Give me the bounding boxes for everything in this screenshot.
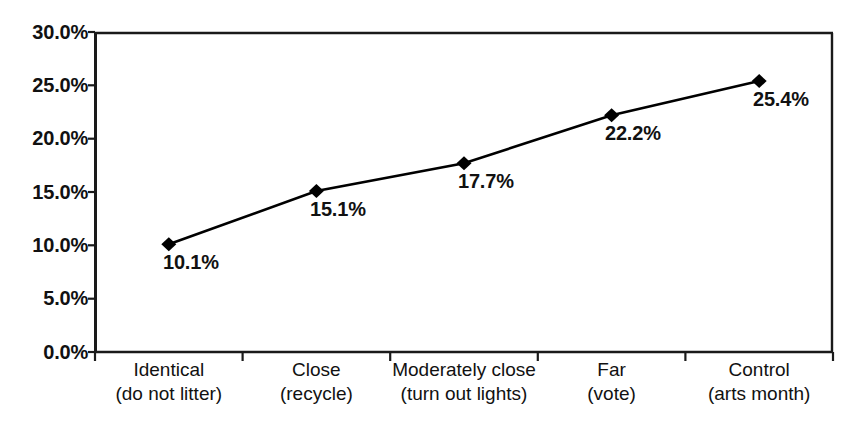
- x-category-label: Far (vote): [538, 358, 686, 420]
- x-category-line2: (recycle): [243, 382, 391, 406]
- x-category-label: Moderately close (turn out lights): [390, 358, 538, 420]
- y-axis-ticks: [88, 32, 95, 352]
- x-category-label: Close (recycle): [243, 358, 391, 420]
- x-category-label: Control (arts month): [685, 358, 833, 420]
- data-point-marker: [604, 108, 619, 122]
- x-category-line2: (do not litter): [95, 382, 243, 406]
- data-point-label: 25.4%: [753, 89, 809, 109]
- x-category-line2: (vote): [538, 382, 686, 406]
- data-point-marker: [161, 237, 176, 251]
- data-point-marker: [752, 74, 767, 88]
- data-point-label: 15.1%: [310, 199, 366, 219]
- x-category-line1: Moderately close: [390, 358, 538, 382]
- x-axis-category-labels: Identical (do not litter) Close (recycle…: [95, 358, 833, 420]
- data-point-label: 17.7%: [458, 171, 514, 191]
- x-category-line1: Close: [243, 358, 391, 382]
- data-point-marker: [457, 156, 472, 170]
- line-chart: 30.0% 25.0% 20.0% 15.0% 10.0% 5.0% 0.0%: [0, 0, 863, 431]
- x-category-line1: Far: [538, 358, 686, 382]
- x-category-line2: (turn out lights): [390, 382, 538, 406]
- x-category-line1: Identical: [95, 358, 243, 382]
- x-category-line1: Control: [685, 358, 833, 382]
- axis-frame: [95, 32, 833, 352]
- data-point-label: 22.2%: [605, 123, 661, 143]
- data-point-marker: [309, 184, 324, 198]
- data-point-label: 10.1%: [163, 252, 219, 272]
- x-category-label: Identical (do not litter): [95, 358, 243, 420]
- x-category-line2: (arts month): [685, 382, 833, 406]
